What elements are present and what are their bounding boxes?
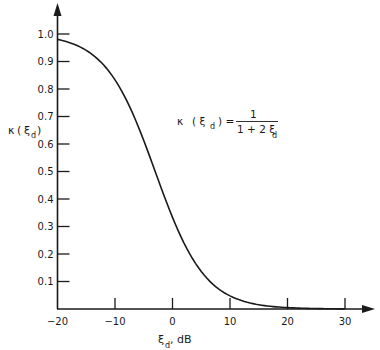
y-tick-label: 0.8: [38, 84, 54, 95]
x-ticks: −20−100102030: [47, 298, 351, 327]
formula-denominator: 1 + 2 ξ: [237, 123, 275, 135]
formula-kappa: κ: [177, 115, 183, 127]
y-label-sub: d: [31, 131, 36, 140]
x-axis-label: ξ d , dB: [158, 333, 192, 350]
y-label-kappa: κ: [8, 124, 15, 137]
x-tick-label: 10: [224, 316, 237, 327]
y-label-open: (: [17, 124, 21, 137]
y-tick-label: 0.5: [38, 166, 54, 177]
y-axis-arrow-icon: [54, 3, 62, 16]
y-label-xi: ξ: [24, 124, 30, 137]
x-tick-label: −10: [104, 316, 125, 327]
y-tick-label: 0.4: [38, 194, 54, 205]
y-tick-label: 1.0: [38, 29, 54, 40]
y-tick-label: 0.6: [38, 139, 54, 150]
formula-den-sub: d: [272, 131, 277, 140]
y-tick-label: 0.2: [38, 249, 54, 260]
y-tick-label: 0.9: [38, 56, 54, 67]
kappa-curve: [58, 39, 346, 308]
formula-arg-sub: d: [210, 122, 215, 131]
y-tick-label: 0.1: [38, 276, 54, 287]
x-label-unit: , dB: [170, 333, 192, 346]
chart: 0.10.20.30.40.50.60.70.80.91.0 −20−10010…: [0, 0, 380, 350]
formula-annotation: κ ( ξ d ) = 1 1 + 2 ξ d: [177, 108, 278, 140]
x-tick-label: 20: [281, 316, 294, 327]
y-ticks: 0.10.20.30.40.50.60.70.80.91.0: [38, 29, 70, 288]
x-axis-arrow-icon: [362, 305, 375, 313]
x-label-xi: ξ: [158, 333, 164, 346]
formula-numerator: 1: [250, 108, 257, 120]
y-tick-label: 0.7: [38, 111, 54, 122]
x-tick-label: 0: [169, 316, 175, 327]
formula-equals: ) =: [218, 115, 234, 127]
formula-arg: ( ξ: [192, 115, 205, 127]
y-axis-label: κ ( ξ d ): [8, 124, 41, 140]
x-tick-label: 30: [339, 316, 352, 327]
y-label-close: ): [37, 124, 41, 137]
y-tick-label: 0.3: [38, 221, 54, 232]
x-tick-label: −20: [47, 316, 68, 327]
